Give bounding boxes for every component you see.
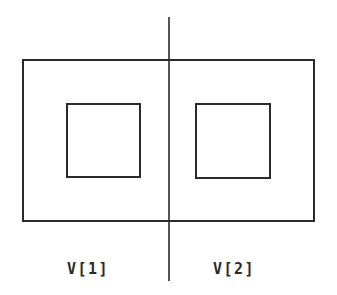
inner-square-left <box>67 104 140 177</box>
partition-diagram <box>0 0 337 295</box>
label-v1: V[1] <box>67 262 109 277</box>
inner-square-right <box>196 104 270 178</box>
label-v2: V[2] <box>213 262 255 277</box>
